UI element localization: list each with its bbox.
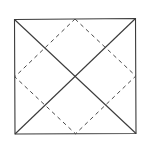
geometry-diagram <box>0 0 146 147</box>
